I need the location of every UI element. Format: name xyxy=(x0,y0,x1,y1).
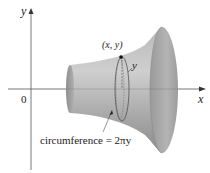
diagram-canvas xyxy=(0,0,210,173)
surface-rim xyxy=(150,27,178,153)
origin-label: 0 xyxy=(21,94,27,105)
circumference-label: circumference = 2πy xyxy=(40,135,131,146)
point-marker xyxy=(119,55,123,59)
x-axis-arrow-icon xyxy=(199,87,206,92)
surface-of-revolution-figure: y 0 x (x, y) y circumference = 2πy xyxy=(0,0,210,173)
radius-label: y xyxy=(132,60,137,71)
x-axis-label: x xyxy=(198,93,203,105)
y-axis-label: y xyxy=(21,5,26,17)
point-label: (x, y) xyxy=(102,40,123,50)
y-axis-arrow-icon xyxy=(29,8,34,14)
